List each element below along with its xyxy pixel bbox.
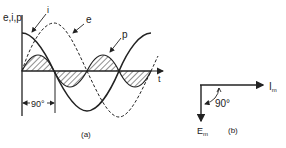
power-label: p [122, 29, 128, 40]
diagram-canvas: e,i,p t i e p 90° (a) 90° Im Em (b) [0, 0, 286, 148]
voltage-phasor-label: Em [197, 126, 208, 137]
waveform-plot: e,i,p t i e p 90° (a) [3, 5, 163, 139]
phase-label: 90° [31, 99, 45, 109]
pointer-arrow-p [110, 38, 121, 52]
voltage-label: e [86, 14, 92, 25]
angle-label: 90° [215, 98, 230, 109]
pointer-arrow-i [32, 14, 46, 32]
caption-b: (b) [228, 126, 238, 135]
y-axis-label: e,i,p [3, 12, 22, 23]
pointer-arrow-e [73, 24, 84, 33]
current-phasor-label: Im [269, 81, 277, 93]
x-axis-label: t [158, 74, 161, 84]
phasor-diagram: 90° Im Em (b) [197, 81, 277, 137]
current-label: i [47, 5, 49, 15]
caption-a: (a) [81, 130, 91, 139]
